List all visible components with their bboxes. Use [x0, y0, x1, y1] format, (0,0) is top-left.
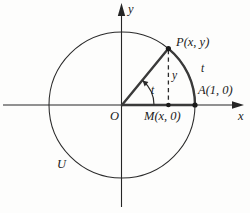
- point-marker-M: [166, 103, 171, 108]
- figure-canvas: [0, 0, 250, 213]
- label-point-p: P(x, y): [176, 36, 209, 49]
- label-angle-t: t: [151, 85, 154, 97]
- x-axis-arrowhead: [232, 101, 244, 108]
- label-axis-x: x: [238, 110, 244, 123]
- label-point-m: M(x, 0): [144, 110, 181, 123]
- unit-circle-figure: P(x, y) A(1, 0) M(x, 0) O U y x t t y: [0, 0, 250, 213]
- label-arc-t: t: [201, 63, 204, 75]
- label-axis-y: y: [128, 3, 134, 16]
- label-segment-y: y: [172, 70, 177, 82]
- segment-OP: [122, 49, 168, 105]
- label-origin: O: [110, 110, 119, 123]
- label-circle-u: U: [57, 158, 66, 171]
- y-axis-arrowhead: [118, 3, 125, 16]
- label-point-a: A(1, 0): [198, 84, 233, 97]
- point-marker-A: [192, 102, 197, 107]
- point-marker-P: [166, 46, 171, 51]
